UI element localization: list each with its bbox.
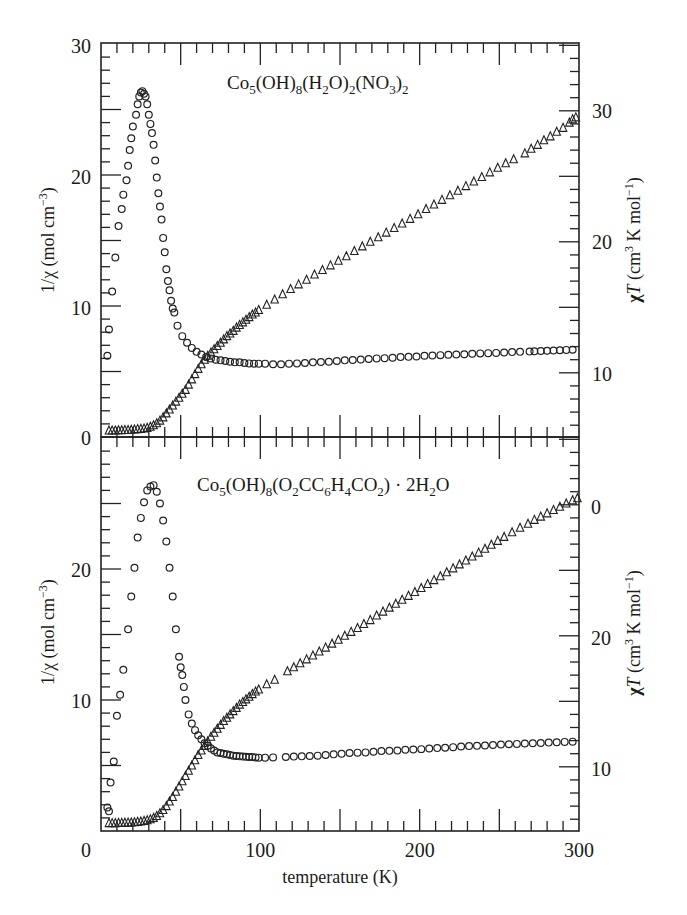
- circle-marker: [306, 753, 313, 760]
- circle-marker: [150, 141, 157, 148]
- chi-t-series: [105, 113, 579, 434]
- circle-marker: [466, 743, 473, 750]
- circle-marker: [134, 534, 141, 541]
- circle-marker: [179, 672, 186, 679]
- triangle-marker: [559, 123, 567, 131]
- circle-marker: [109, 288, 116, 295]
- circle-marker: [346, 750, 353, 757]
- circle-marker: [153, 174, 160, 181]
- title-text: CC: [299, 474, 324, 495]
- triangle-marker: [263, 680, 271, 688]
- triangle-marker: [382, 228, 390, 236]
- circle-marker: [161, 249, 168, 256]
- triangle-marker: [547, 132, 555, 140]
- circle-marker: [117, 691, 124, 698]
- left-tick-label: 10: [71, 690, 91, 712]
- right-tick-label: 10: [592, 363, 612, 385]
- triangle-marker: [446, 191, 454, 199]
- circle-marker: [330, 751, 337, 758]
- circle-marker: [333, 358, 340, 365]
- circle-marker: [485, 350, 492, 357]
- triangle-marker: [438, 195, 446, 203]
- triangle-marker: [470, 177, 478, 185]
- circle-marker: [133, 111, 140, 118]
- circle-marker: [445, 351, 452, 358]
- circle-marker: [180, 684, 187, 691]
- triangle-marker: [486, 168, 494, 176]
- circle-marker: [176, 653, 183, 660]
- circle-marker: [128, 593, 135, 600]
- triangle-marker: [295, 280, 303, 288]
- circle-marker: [166, 287, 173, 294]
- circle-marker: [144, 101, 151, 108]
- left-y-axis-label-part: 1/χ (mol cm: [38, 598, 59, 685]
- circle-marker: [365, 356, 372, 363]
- triangle-marker: [319, 265, 327, 273]
- right-y-axis-label-part: K mol: [624, 196, 644, 246]
- right-y-axis-label-part: ): [624, 570, 645, 576]
- right-y-axis-label-part: −1: [622, 183, 636, 196]
- left-tick-label: 0: [81, 839, 91, 861]
- triangle-marker: [303, 275, 311, 283]
- triangle-marker: [271, 675, 279, 683]
- circle-marker: [294, 360, 301, 367]
- circle-marker: [107, 779, 114, 786]
- right-tick-label: 10: [591, 758, 611, 780]
- plot-frame: [101, 437, 579, 831]
- circle-marker: [141, 499, 148, 506]
- triangle-marker: [279, 290, 287, 298]
- inverse-susceptibility-series: [104, 88, 576, 368]
- circle-marker: [168, 297, 175, 304]
- triangle-marker: [574, 494, 582, 502]
- circle-marker: [349, 357, 356, 364]
- triangle-marker: [569, 496, 577, 504]
- circle-marker: [302, 360, 309, 367]
- triangle-marker: [422, 205, 430, 213]
- circle-marker: [474, 742, 481, 749]
- circle-marker: [166, 564, 173, 571]
- triangle-marker: [508, 528, 516, 536]
- circle-marker: [434, 745, 441, 752]
- triangle-marker: [351, 246, 359, 254]
- circle-marker: [298, 753, 305, 760]
- circle-marker: [317, 359, 324, 366]
- circle-marker: [418, 746, 425, 753]
- circle-marker: [469, 350, 476, 357]
- title-text: Co: [197, 474, 219, 495]
- circle-marker: [370, 748, 377, 755]
- x-tick-label: 200: [405, 839, 435, 861]
- title-subscript: 2: [402, 82, 409, 97]
- circle-marker: [129, 123, 136, 130]
- circle-marker: [270, 754, 277, 761]
- triangle-marker: [414, 210, 422, 218]
- circle-marker: [157, 203, 164, 210]
- triangle-marker: [374, 233, 382, 241]
- inverse-susceptibility-series: [104, 482, 576, 815]
- title-text: Co: [227, 72, 249, 93]
- circle-marker: [163, 266, 170, 273]
- circle-marker: [106, 808, 113, 815]
- circle-marker: [498, 741, 505, 748]
- circle-marker: [137, 515, 144, 522]
- circle-marker: [174, 322, 181, 329]
- circle-marker: [453, 351, 460, 358]
- left-y-axis-label: 1/χ (mol cm−3): [36, 579, 59, 685]
- circle-marker: [521, 740, 528, 747]
- circle-marker: [114, 712, 121, 719]
- circle-marker: [147, 121, 154, 128]
- circle-marker: [131, 564, 138, 571]
- circle-marker: [561, 739, 568, 746]
- triangle-marker: [406, 214, 414, 222]
- circle-marker: [461, 351, 468, 358]
- left-y-axis-label-part: 1/χ (mol cm: [38, 206, 59, 293]
- circle-marker: [182, 697, 189, 704]
- triangle-marker: [335, 256, 343, 264]
- circle-marker: [126, 147, 133, 154]
- circle-marker: [490, 742, 497, 749]
- circle-marker: [160, 234, 167, 241]
- title-text: H: [331, 474, 345, 495]
- circle-marker: [501, 349, 508, 356]
- circle-marker: [553, 739, 560, 746]
- title-text: (H: [302, 72, 322, 94]
- circle-marker: [569, 738, 576, 745]
